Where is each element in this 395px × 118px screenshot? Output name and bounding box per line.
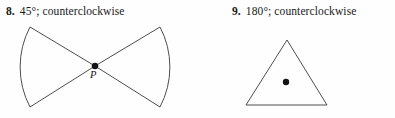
problem-9-instruction: 180°; counterclockwise bbox=[246, 5, 357, 17]
problem-8-instruction: 45°; counterclockwise bbox=[20, 5, 125, 17]
problem-9-number: 9. bbox=[232, 5, 241, 17]
problem-8-number: 8. bbox=[6, 5, 15, 17]
problem-8: 8.45°; counterclockwise P bbox=[0, 0, 200, 118]
center-point-label: P bbox=[90, 69, 96, 80]
center-point-dot bbox=[283, 79, 289, 85]
exercise-page: 8.45°; counterclockwise P 9.180°; counte… bbox=[0, 0, 395, 118]
problem-8-prompt: 8.45°; counterclockwise bbox=[6, 4, 125, 18]
problem-9-prompt: 9.180°; counterclockwise bbox=[232, 4, 356, 18]
problem-8-figure bbox=[0, 18, 200, 118]
left-sector-outline bbox=[20, 27, 95, 107]
bowtie-double-sector-drawing bbox=[0, 18, 200, 118]
right-sector-outline bbox=[95, 27, 170, 107]
triangle-outline bbox=[246, 40, 327, 105]
triangle-drawing bbox=[195, 18, 395, 118]
problem-9-figure bbox=[195, 18, 395, 118]
problem-9: 9.180°; counterclockwise P bbox=[195, 0, 395, 118]
